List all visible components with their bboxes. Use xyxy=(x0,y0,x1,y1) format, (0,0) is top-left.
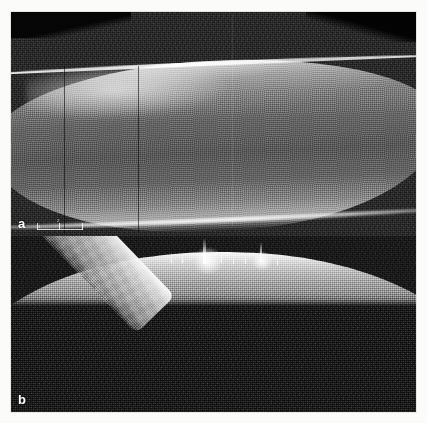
panel-a-top-left-shadow-wedge xyxy=(11,12,131,38)
panel-b-specular-spike-6 xyxy=(233,256,234,264)
panel-a-shadow-line-2 xyxy=(138,66,139,232)
panel-b-specular-spike-3 xyxy=(171,252,172,263)
scale-bar-label-mid: 2 xyxy=(57,218,59,223)
panel-b-specular-spike-4 xyxy=(182,254,183,263)
panel-a-shadow-line-1 xyxy=(64,66,65,234)
panel-b-specular-spike-2 xyxy=(260,242,262,262)
panel-b-ascan-marker-line xyxy=(207,288,208,400)
panel-a-label: a xyxy=(18,217,25,230)
panel-a-oct-scan: 1 2 a xyxy=(11,12,416,236)
panel-b-label: b xyxy=(18,393,26,406)
panel-b-specular-glow-2 xyxy=(251,252,273,270)
panel-b-specular-spike-5 xyxy=(221,253,222,263)
scale-bar-label-left: 1 xyxy=(38,224,40,229)
panel-a-alignment-line xyxy=(232,14,233,226)
figure-image-frame: 1 2 a xyxy=(11,12,416,412)
panel-a-corneal-slab xyxy=(11,51,416,236)
panel-b-oct-scan: b xyxy=(11,236,416,412)
scale-bar-rail xyxy=(37,229,83,230)
panel-b-specular-spike-1 xyxy=(203,238,206,264)
panel-b-specular-spike-8 xyxy=(277,257,278,265)
panel-a-scale-bar: 1 2 xyxy=(37,218,83,230)
panel-a-anterior-haze xyxy=(26,64,228,120)
panel-a-top-right-shadow-wedge xyxy=(306,12,416,42)
oct-figure: 1 2 a xyxy=(0,0,427,423)
scale-bar-tick-2 xyxy=(82,223,83,230)
panel-b-specular-spike-7 xyxy=(245,255,246,264)
scale-bar-tick-1 xyxy=(59,223,60,230)
panel-b-specular-glow-1 xyxy=(192,248,224,274)
